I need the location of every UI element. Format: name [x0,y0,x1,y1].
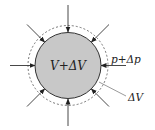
arrow-top-right-icon [91,25,109,43]
delta-volume-label: ΔV [127,91,145,103]
volume-label: V+ΔV [50,59,87,73]
arrow-bottom-left-icon [27,89,45,107]
arrow-top-left-icon [27,25,45,43]
pressure-volume-diagram: V+ΔV p+Δp ΔV [0,0,155,130]
pressure-label: p+Δp [111,53,141,65]
arrow-bottom-right-icon [91,89,109,107]
delta-v-leader-line [99,82,126,96]
